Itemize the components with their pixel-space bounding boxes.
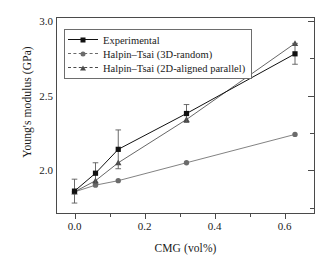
x-tick-label: 0.4 <box>208 221 222 232</box>
legend-key-icon <box>68 62 98 74</box>
legend-key-icon <box>68 48 98 60</box>
data-marker-square <box>184 111 189 116</box>
legend-marker-circle <box>81 52 86 57</box>
legend-marker-triangle <box>80 66 86 71</box>
legend-key-icon <box>68 34 98 46</box>
legend-label: Halpin–Tsai (2D-aligned parallel) <box>103 63 245 74</box>
legend-item-1: Halpin–Tsai (3D-random) <box>68 47 245 61</box>
data-marker-circle <box>116 178 121 183</box>
y-tick-label: 3.0 <box>39 15 53 26</box>
x-tick-label: 0.2 <box>138 221 152 232</box>
data-marker-square <box>93 171 98 176</box>
data-marker-square <box>292 51 297 56</box>
legend-label: Experimental <box>103 35 160 46</box>
y-tick-label: 2.0 <box>39 165 53 176</box>
legend-item-2: Halpin–Tsai (2D-aligned parallel) <box>68 61 245 75</box>
x-axis-title: CMG (vol%) <box>56 242 315 254</box>
x-tick-label: 0.6 <box>278 221 292 232</box>
y-axis-title: Young's modulus (GPa) <box>21 12 33 192</box>
data-marker-square <box>72 189 77 194</box>
y-tick-label: 2.5 <box>39 90 53 101</box>
chart-figure: Young's modulus (GPa) CMG (vol%) 2.02.53… <box>0 0 336 265</box>
legend-item-0: Experimental <box>68 33 245 47</box>
legend-marker-square <box>81 38 86 43</box>
data-marker-circle <box>292 132 297 137</box>
plot-area: 2.02.53.0 0.00.20.40.6 ExperimentalHalpi… <box>56 17 315 214</box>
x-tick-label: 0.0 <box>68 221 82 232</box>
data-marker-square <box>116 147 121 152</box>
data-marker-circle <box>184 160 189 165</box>
chart-legend: ExperimentalHalpin–Tsai (3D-random)Halpi… <box>64 29 252 79</box>
legend-label: Halpin–Tsai (3D-random) <box>103 49 212 60</box>
